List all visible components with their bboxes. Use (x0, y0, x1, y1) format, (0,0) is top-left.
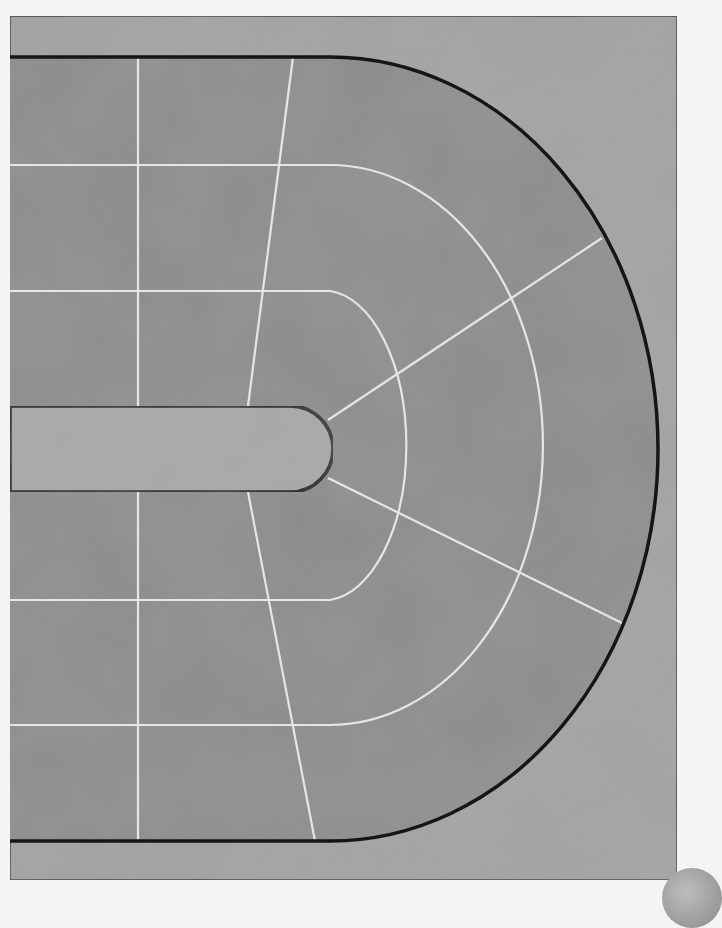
corner-token[interactable] (662, 868, 722, 928)
infield-barrier (10, 406, 333, 492)
